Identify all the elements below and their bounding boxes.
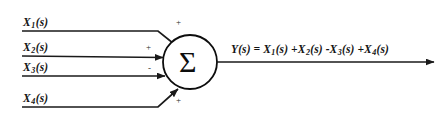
input-label-3: X3(s): [23, 62, 48, 75]
input-label-1: X1(s): [23, 17, 48, 30]
term-2-suffix: (s): [310, 43, 322, 55]
input-3-suffix: (s): [36, 61, 49, 73]
input-sign-4: +: [176, 96, 181, 105]
input-1-variable: X: [23, 16, 31, 28]
input-1-suffix: (s): [36, 16, 49, 28]
input-label-2: X2(s): [23, 42, 48, 55]
input-label-4: X4(s): [23, 93, 48, 106]
term-1-variable: X: [263, 43, 271, 55]
input-2-variable: X: [23, 41, 31, 53]
equals-sign: =: [254, 43, 261, 55]
term-4-variable: X: [364, 43, 372, 55]
output-equation: Y(s) = X1(s) +X2(s) -X3(s) +X4(s): [231, 44, 389, 57]
block-diagram-canvas: Σ X1(s) X2(s) X3(s) X4(s) + + - + Y(s) =…: [0, 0, 443, 114]
term-4-suffix: (s): [377, 43, 389, 55]
output-term-3: X3(s): [330, 43, 355, 55]
input-3-variable: X: [23, 61, 31, 73]
output-y-suffix: (s): [238, 43, 250, 55]
input-4-suffix: (s): [36, 92, 49, 104]
term-1-suffix: (s): [276, 43, 288, 55]
input-sign-2: +: [146, 43, 151, 52]
output-term-1: X1(s): [263, 43, 288, 55]
diagram-vector-layer: [0, 0, 443, 114]
input-sign-1: +: [176, 18, 181, 27]
output-term-2: X2(s): [298, 43, 323, 55]
input-line-2: [22, 56, 163, 58]
input-2-suffix: (s): [36, 41, 49, 53]
term-2-operator: +: [291, 43, 298, 55]
input-4-variable: X: [23, 92, 31, 104]
input-sign-3: -: [148, 64, 151, 73]
output-term-4: X4(s): [364, 43, 389, 55]
sigma-symbol: Σ: [179, 47, 196, 77]
term-2-variable: X: [298, 43, 306, 55]
term-3-suffix: (s): [342, 43, 354, 55]
